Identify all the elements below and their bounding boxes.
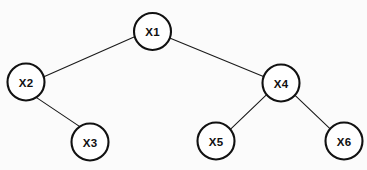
node-x5-label: X5: [209, 136, 224, 148]
edge-x4-x6: [295, 95, 330, 129]
node-x6-label: X6: [337, 136, 351, 148]
tree-diagram-canvas: X1 X2 X4 X3 X5 X6: [0, 0, 367, 170]
node-x2[interactable]: X2: [8, 64, 45, 101]
edge-x4-x5: [230, 94, 267, 129]
node-x2-label: X2: [19, 77, 33, 89]
node-group: X1 X2 X4 X3 X5 X6: [8, 13, 363, 161]
node-x4[interactable]: X4: [263, 65, 300, 102]
node-x1[interactable]: X1: [134, 13, 171, 50]
edge-x2-x3: [36, 97, 80, 126]
node-x1-label: X1: [145, 26, 160, 38]
node-x3[interactable]: X3: [72, 124, 109, 161]
tree-diagram: X1 X2 X4 X3 X5 X6: [0, 0, 367, 170]
edge-x1-x4: [170, 38, 263, 76]
node-x4-label: X4: [274, 78, 289, 90]
node-x3-label: X3: [83, 137, 97, 149]
node-x6[interactable]: X6: [326, 123, 363, 160]
edge-x1-x2: [44, 37, 135, 77]
node-x5[interactable]: X5: [198, 123, 235, 160]
